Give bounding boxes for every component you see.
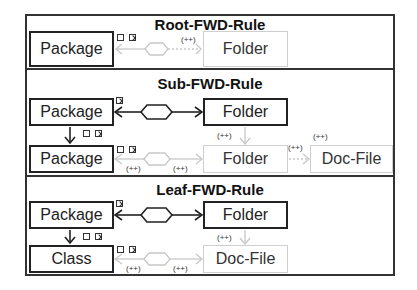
create-label: (++)	[181, 35, 196, 44]
checkbox-checked-icon	[129, 246, 136, 253]
rule-title-leaf: Leaf-FWD-Rule	[25, 181, 395, 198]
leaf-package-node[interactable]: Package	[29, 201, 114, 229]
sub-child-folder-node[interactable]: Folder	[203, 145, 288, 173]
checkbox-checked-icon	[116, 97, 123, 104]
divider-sub-leaf	[25, 175, 395, 177]
sub-folder-node[interactable]: Folder	[203, 98, 288, 126]
checkbox-checked-icon	[116, 200, 123, 207]
create-label: (++)	[126, 264, 141, 273]
root-package-node[interactable]: Package	[29, 31, 114, 67]
leaf-class-node[interactable]: Class	[29, 245, 114, 273]
checkbox-checked-icon	[95, 130, 102, 137]
sub-child-package-node[interactable]: Package	[29, 145, 114, 173]
root-folder-node[interactable]: Folder	[203, 31, 288, 67]
create-label: (++)	[217, 131, 232, 140]
create-label: (++)	[288, 143, 303, 152]
checkbox-checked-icon	[95, 233, 102, 240]
checkbox-icon	[117, 246, 124, 253]
create-label: (++)	[217, 233, 232, 242]
create-label: (++)	[147, 252, 162, 261]
create-label: (++)	[313, 132, 328, 141]
sub-package-node[interactable]: Package	[29, 98, 114, 126]
leaf-folder-node[interactable]: Folder	[203, 201, 288, 229]
sub-docfile-node[interactable]: Doc-File	[310, 145, 393, 173]
checkbox-icon	[83, 130, 90, 137]
checkbox-icon	[117, 34, 124, 41]
create-label: (++)	[147, 152, 162, 161]
create-label: (++)	[147, 43, 162, 52]
divider-root-sub	[25, 68, 395, 70]
leaf-docfile-node[interactable]: Doc-File	[203, 245, 288, 273]
checkbox-icon	[117, 146, 124, 153]
create-label: (++)	[126, 164, 141, 173]
rule-title-sub: Sub-FWD-Rule	[25, 75, 395, 92]
checkbox-checked-icon	[129, 146, 136, 153]
create-label: (++)	[173, 164, 188, 173]
checkbox-icon	[83, 233, 90, 240]
create-label: (++)	[173, 264, 188, 273]
checkbox-checked-icon	[129, 34, 136, 41]
